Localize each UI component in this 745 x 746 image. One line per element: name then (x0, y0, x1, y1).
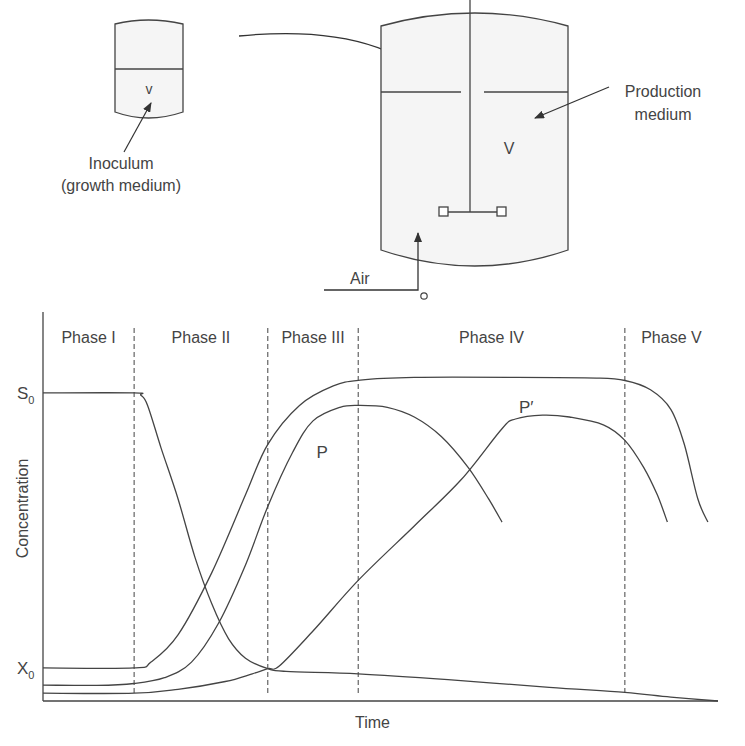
y-tick-label: S0 (17, 384, 34, 406)
bioprocess-diagram: v Inoculum (growth medium) V Production … (0, 0, 745, 746)
phase-label: Phase IV (459, 329, 524, 346)
inoculum-label: Inoculum (89, 155, 154, 172)
series-label-p-prime: P′ (519, 398, 534, 417)
impeller-blade-left (439, 207, 448, 216)
x-axis-label: Time (355, 714, 390, 731)
production-medium-label: Production (625, 83, 702, 100)
series-line-s (43, 393, 718, 701)
series-line-p-prime (43, 415, 667, 693)
phase-label: Phase II (172, 329, 231, 346)
production-vessel: V Production medium (381, 0, 701, 266)
series-line-p (43, 405, 502, 685)
production-medium-sublabel: medium (635, 106, 692, 123)
series-label-p: P (316, 443, 327, 462)
y-tick-label: X0 (17, 659, 34, 681)
phase-label: Phase V (641, 329, 702, 346)
inoculum-sublabel: (growth medium) (61, 177, 181, 194)
production-volume-label: V (504, 140, 515, 157)
phase-label: Phase I (61, 329, 115, 346)
concentration-time-chart: Phase IPhase IIPhase IIIPhase IVPhase V … (14, 312, 718, 731)
series-line-x (43, 377, 708, 668)
y-axis-label: Concentration (14, 459, 31, 559)
inoculum-volume-label: v (146, 81, 153, 97)
phase-label: Phase III (281, 329, 344, 346)
air-label: Air (350, 270, 370, 287)
impeller-blade-right (497, 207, 506, 216)
air-sparger-icon (421, 293, 427, 299)
inoculum-vessel: v Inoculum (growth medium) (61, 20, 183, 194)
